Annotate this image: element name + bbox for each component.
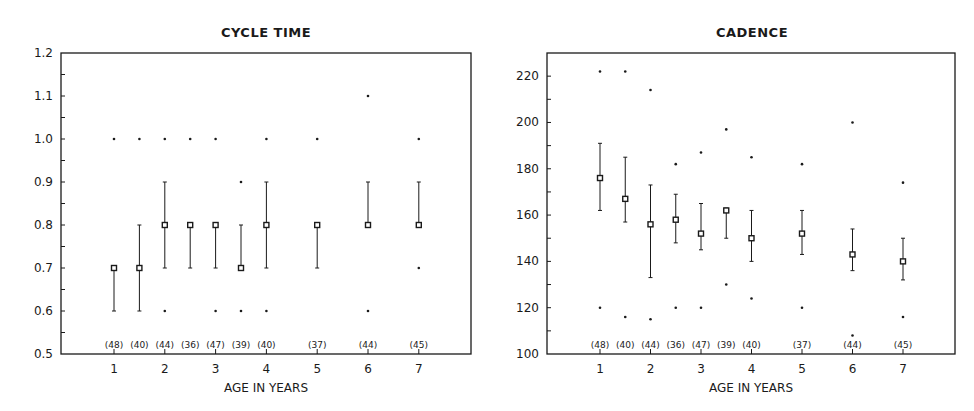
y-tick-label: 140 <box>516 254 539 268</box>
sample-size-label: (37) <box>308 340 326 350</box>
extreme-point <box>214 138 217 141</box>
extreme-point <box>214 310 217 313</box>
y-tick-label: 1.0 <box>34 132 53 146</box>
x-axis-label: AGE IN YEARS <box>709 381 793 395</box>
sample-size-label: (36) <box>181 340 199 350</box>
y-tick-label: 200 <box>516 115 539 129</box>
extreme-point <box>851 121 854 124</box>
sample-size-label: (47) <box>692 340 710 350</box>
x-tick-label: 3 <box>212 362 220 376</box>
sample-size-label: (47) <box>206 340 224 350</box>
x-tick-label: 5 <box>313 362 321 376</box>
sample-size-label: (36) <box>667 340 685 350</box>
median-marker <box>137 266 142 271</box>
sample-size-label: (44) <box>843 340 861 350</box>
y-tick-label: 120 <box>516 301 539 315</box>
extreme-point <box>164 138 167 141</box>
x-tick-label: 4 <box>263 362 271 376</box>
sample-size-label: (44) <box>156 340 174 350</box>
extreme-point <box>418 267 421 270</box>
y-tick-label: 220 <box>516 69 539 83</box>
extreme-point <box>750 297 753 300</box>
sample-size-label: (44) <box>641 340 659 350</box>
x-tick-label: 6 <box>364 362 372 376</box>
x-tick-label: 1 <box>596 362 604 376</box>
extreme-point <box>902 316 905 319</box>
sample-size-label: (37) <box>793 340 811 350</box>
extreme-point <box>265 138 268 141</box>
extreme-point <box>700 151 703 154</box>
median-marker <box>366 223 371 228</box>
x-tick-label: 5 <box>798 362 806 376</box>
y-tick-label: 0.7 <box>34 261 53 275</box>
median-marker <box>112 266 117 271</box>
x-axis-label: AGE IN YEARS <box>224 381 308 395</box>
extreme-point <box>851 334 854 337</box>
y-tick-label: 1.1 <box>34 89 53 103</box>
extreme-point <box>700 306 703 309</box>
extreme-point <box>801 306 804 309</box>
extreme-point <box>113 138 116 141</box>
y-tick-label: 100 <box>516 347 539 361</box>
x-tick-label: 1 <box>110 362 118 376</box>
median-marker <box>623 196 628 201</box>
median-marker <box>213 223 218 228</box>
extreme-point <box>674 306 677 309</box>
x-tick-label: 3 <box>697 362 705 376</box>
extreme-point <box>599 306 602 309</box>
median-marker <box>850 252 855 257</box>
x-tick-label: 2 <box>647 362 655 376</box>
extreme-point <box>240 310 243 313</box>
sample-size-label: (44) <box>359 340 377 350</box>
sample-size-label: (40) <box>616 340 634 350</box>
extreme-point <box>725 283 728 286</box>
extreme-point <box>265 310 268 313</box>
extreme-point <box>189 138 192 141</box>
median-marker <box>188 223 193 228</box>
y-tick-label: 180 <box>516 162 539 176</box>
y-tick-label: 0.9 <box>34 175 53 189</box>
median-marker <box>724 208 729 213</box>
sample-size-label: (45) <box>894 340 912 350</box>
sample-size-label: (39) <box>717 340 735 350</box>
extreme-point <box>624 316 627 319</box>
x-tick-label: 7 <box>899 362 907 376</box>
extreme-point <box>649 89 652 92</box>
median-marker <box>901 259 906 264</box>
y-tick-label: 160 <box>516 208 539 222</box>
median-marker <box>264 223 269 228</box>
extreme-point <box>367 95 370 98</box>
y-tick-label: 0.8 <box>34 218 53 232</box>
extreme-point <box>624 70 627 73</box>
plot-canvas: 0.50.60.70.80.91.01.11.21234567AGE IN YE… <box>0 0 974 411</box>
median-marker <box>416 223 421 228</box>
median-marker <box>749 236 754 241</box>
extreme-point <box>674 163 677 166</box>
sample-size-label: (45) <box>410 340 428 350</box>
median-marker <box>162 223 167 228</box>
extreme-point <box>316 138 319 141</box>
median-marker <box>315 223 320 228</box>
plot-frame <box>547 53 955 354</box>
extreme-point <box>801 163 804 166</box>
median-marker <box>598 176 603 181</box>
extreme-point <box>750 156 753 159</box>
y-tick-label: 1.2 <box>34 46 53 60</box>
median-marker <box>673 217 678 222</box>
sample-size-label: (40) <box>257 340 275 350</box>
x-tick-label: 6 <box>849 362 857 376</box>
sample-size-label: (48) <box>591 340 609 350</box>
sample-size-label: (48) <box>105 340 123 350</box>
x-tick-label: 7 <box>415 362 423 376</box>
extreme-point <box>164 310 167 313</box>
extreme-point <box>240 181 243 184</box>
sample-size-label: (40) <box>742 340 760 350</box>
sample-size-label: (40) <box>130 340 148 350</box>
extreme-point <box>138 138 141 141</box>
median-marker <box>699 231 704 236</box>
median-marker <box>648 222 653 227</box>
sample-size-label: (39) <box>232 340 250 350</box>
extreme-point <box>367 310 370 313</box>
x-tick-label: 4 <box>748 362 756 376</box>
extreme-point <box>418 138 421 141</box>
